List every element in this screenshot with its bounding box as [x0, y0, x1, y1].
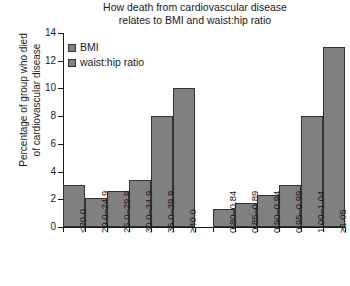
y-axis-tick-label: 12 [36, 56, 56, 66]
bar [323, 47, 345, 227]
x-axis-tick-label: 20.0–24.9 [100, 191, 110, 233]
legend-swatch-icon [68, 59, 76, 67]
legend-label-waist-hip-ratio: waist:hip ratio [80, 56, 144, 69]
x-axis-tick-label: 25.0–29.9 [122, 191, 132, 233]
chart-container: How death from cardiovascular disease re… [0, 0, 350, 286]
chart-title: How death from cardiovascular disease re… [50, 1, 340, 27]
x-axis-tick-label: 0.80–0.84 [228, 191, 238, 233]
legend-item-waist-hip-ratio: waist:hip ratio [68, 56, 144, 69]
x-axis-tick [63, 227, 64, 232]
x-axis-tick-label: <20.0 [78, 209, 88, 233]
legend-swatch-icon [68, 44, 76, 52]
y-axis-tick-label: 6 [36, 139, 56, 149]
x-axis-tick-label: ≥40.0 [188, 209, 198, 233]
bar [173, 88, 195, 227]
x-axis-tick-label: 30.0–34.9 [144, 191, 154, 233]
y-axis-label-line-1: Percentage of group who died [17, 10, 30, 190]
chart-title-line-1: How death from cardiovascular disease [50, 1, 340, 14]
x-axis-tick-label: 1.00–1.04 [316, 191, 326, 233]
x-axis-tick-label: 35.0–39.9 [166, 191, 176, 233]
legend-label-bmi: BMI [80, 41, 99, 54]
chart-legend: BMI waist:hip ratio [68, 41, 144, 71]
x-axis-tick-label: 0.90–0.94 [272, 191, 282, 233]
x-axis-tick [213, 227, 214, 232]
x-axis-tick-label: 0.85–0.89 [250, 191, 260, 233]
x-axis-tick-label: 0.95–0.99 [294, 191, 304, 233]
y-axis-tick-label: 2 [36, 194, 56, 204]
x-axis-tick-label: ≥1.05 [338, 209, 348, 233]
chart-title-line-2: relates to BMI and waist:hip ratio [50, 14, 340, 27]
y-axis-tick-label: 8 [36, 111, 56, 121]
y-axis-tick-label: 14 [36, 28, 56, 38]
y-axis-tick-label: 10 [36, 83, 56, 93]
legend-item-bmi: BMI [68, 41, 144, 54]
y-axis-tick-label: 0 [36, 222, 56, 232]
y-axis-tick-label: 4 [36, 167, 56, 177]
